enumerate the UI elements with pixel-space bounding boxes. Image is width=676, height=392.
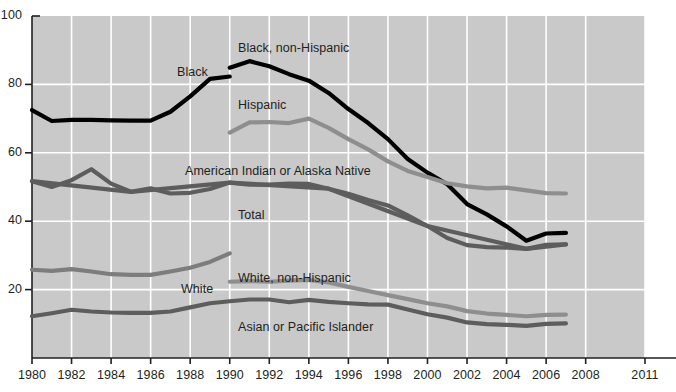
x-tick-label: 1986 <box>129 368 173 382</box>
x-tick-label: 1996 <box>326 368 370 382</box>
series-label: American Indian or Alaska Native <box>185 164 371 178</box>
x-tick-label: 2004 <box>485 368 529 382</box>
x-tick-marks <box>32 358 645 364</box>
chart-figure: 20406080100 1980198219841986198819901992… <box>0 0 676 392</box>
series-label: White <box>181 282 213 296</box>
x-tick-label: 1980 <box>10 368 54 382</box>
x-tick-label: 2000 <box>405 368 449 382</box>
series-label: White, non-Hispanic <box>238 271 351 285</box>
y-tick-label: 40 <box>0 213 22 227</box>
x-tick-label: 2008 <box>564 368 608 382</box>
y-tick-marks <box>25 84 32 289</box>
x-tick-label: 2002 <box>445 368 489 382</box>
x-tick-label: 1988 <box>168 368 212 382</box>
x-tick-label: 1982 <box>50 368 94 382</box>
y-tick-label: 20 <box>0 282 22 296</box>
series-label: Asian or Pacific Islander <box>238 320 373 334</box>
x-tick-label: 1992 <box>247 368 291 382</box>
x-tick-label: 2006 <box>524 368 568 382</box>
y-tick-label: 80 <box>0 76 22 90</box>
series-label: Black <box>177 65 208 79</box>
series-label: Hispanic <box>238 98 286 112</box>
series-label: Total <box>238 208 265 222</box>
x-tick-label: 1998 <box>366 368 410 382</box>
x-tick-label: 1990 <box>208 368 252 382</box>
series-label: Black, non-Hispanic <box>238 41 349 55</box>
x-tick-label: 1994 <box>287 368 331 382</box>
x-tick-label: 2011 <box>623 368 667 382</box>
y-tick-label: 60 <box>0 145 22 159</box>
x-tick-label: 1984 <box>89 368 133 382</box>
y-tick-label: 100 <box>0 8 22 22</box>
